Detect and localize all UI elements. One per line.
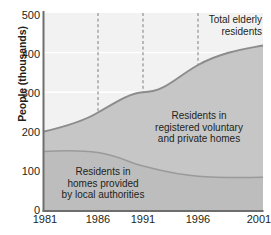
x-axis-tick-labels: 1981 1986 1991 1996 2001	[0, 212, 271, 232]
chart-container: People (thousands) 500 400 300 200 100 0	[0, 0, 271, 235]
annotation-total-elderly: Total elderly residents	[209, 14, 262, 37]
x-tick-label: 1991	[123, 214, 163, 225]
x-tick-label: 1996	[178, 214, 218, 225]
annotation-voluntary-private: Residents in registered voluntary and pr…	[138, 110, 260, 145]
x-tick-label: 2001	[239, 214, 271, 225]
x-tick-label: 1986	[78, 214, 118, 225]
annotation-local-authorities: Residents in homes provided by local aut…	[48, 166, 158, 201]
x-tick-label: 1981	[25, 214, 65, 225]
